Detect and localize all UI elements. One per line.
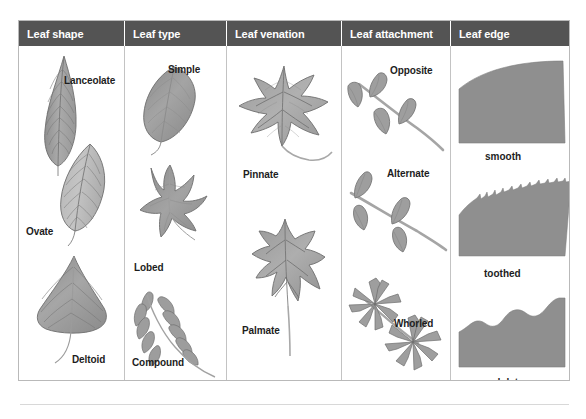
- cell-leaf-shape: Lanceolate: [19, 46, 125, 380]
- label-whorled: Whorled: [394, 318, 433, 329]
- leaf-characteristics-table: Leaf shape Leaf type Leaf venation Leaf …: [18, 20, 570, 381]
- cell-leaf-attachment: Opposite: [342, 46, 451, 380]
- column-header-leaf-venation: Leaf venation: [227, 21, 342, 46]
- cell-leaf-edge: smooth toothed undulate: [451, 46, 569, 380]
- label-alternate: Alternate: [387, 168, 429, 179]
- lobed-leaf-illustration: [133, 162, 215, 252]
- ovate-leaf-illustration: [55, 141, 117, 249]
- label-deltoid: Deltoid: [72, 354, 105, 365]
- label-lanceolate: Lanceolate: [64, 75, 115, 86]
- label-pinnate: Pinnate: [243, 169, 278, 180]
- opposite-attachment-illustration: [345, 66, 449, 164]
- table-body-row: Lanceolate: [19, 46, 569, 380]
- label-simple: Simple: [168, 64, 200, 75]
- toothed-edge-illustration: [457, 177, 569, 257]
- label-compound: Compound: [132, 357, 184, 368]
- label-undulate: undulate: [482, 377, 524, 380]
- column-header-leaf-shape: Leaf shape: [19, 21, 125, 46]
- palmate-leaf-illustration: [245, 216, 325, 362]
- label-smooth: smooth: [485, 151, 521, 162]
- column-header-leaf-attachment: Leaf attachment: [342, 21, 451, 46]
- undulate-edge-illustration: [457, 294, 569, 368]
- alternate-attachment-illustration: [345, 169, 449, 261]
- label-ovate: Ovate: [26, 226, 53, 237]
- cell-leaf-type: Simple: [125, 46, 227, 380]
- column-header-leaf-type: Leaf type: [125, 21, 227, 46]
- label-lobed: Lobed: [134, 262, 164, 273]
- simple-leaf-illustration: [138, 64, 208, 158]
- label-toothed: toothed: [484, 268, 521, 279]
- column-header-leaf-edge: Leaf edge: [451, 21, 569, 46]
- smooth-edge-illustration: [457, 59, 569, 144]
- bottom-divider-rule: [20, 404, 569, 405]
- label-palmate: Palmate: [242, 325, 280, 336]
- pinnate-leaf-illustration: [231, 62, 337, 167]
- label-opposite: Opposite: [390, 65, 433, 76]
- table-header-row: Leaf shape Leaf type Leaf venation Leaf …: [19, 21, 569, 46]
- cell-leaf-venation: Pinnate: [227, 46, 342, 380]
